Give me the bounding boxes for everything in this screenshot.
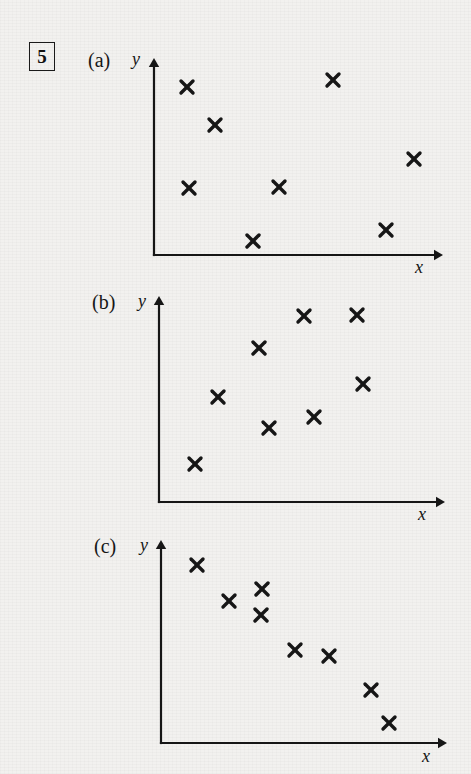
scatter-plot-c: [0, 0, 471, 774]
data-point-marker: [223, 595, 235, 607]
x-axis-arrowhead: [438, 738, 447, 748]
data-point-marker: [323, 650, 335, 662]
worksheet-page: 5 (a) y x (b) y x (c) y x: [0, 0, 471, 774]
data-point-marker: [365, 684, 377, 696]
data-point-marker: [191, 559, 203, 571]
data-point-marker: [255, 609, 267, 621]
scatter-plot-c-svg: [0, 0, 471, 774]
data-point-marker: [289, 644, 301, 656]
y-axis-arrowhead: [156, 540, 166, 549]
data-point-marker: [383, 717, 395, 729]
data-point-marker: [256, 583, 268, 595]
